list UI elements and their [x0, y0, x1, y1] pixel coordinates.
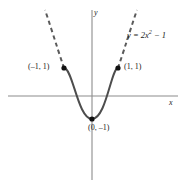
x-axis-label: x: [169, 99, 173, 107]
curve-dashed-left: [45, 10, 64, 68]
curve-equation-label: y = 2x2 − 1: [127, 31, 166, 40]
curve-equation-base: y = 2x: [127, 30, 149, 40]
point-label-left: (–1, 1): [28, 63, 49, 71]
curve-equation-tail: − 1: [152, 30, 166, 40]
point-label-right: (1, 1): [124, 63, 141, 71]
point-marker-vertex: [89, 116, 94, 121]
y-axis-label: y: [94, 9, 98, 17]
parabola-figure: y x (–1, 1) (1, 1) (0, –1) y = 2x2 − 1: [0, 0, 181, 186]
point-marker-right: [115, 65, 120, 70]
point-marker-left: [61, 65, 66, 70]
graph-canvas: [0, 0, 181, 186]
point-label-vertex: (0, –1): [88, 124, 109, 132]
curve-solid-segment: [64, 68, 118, 119]
